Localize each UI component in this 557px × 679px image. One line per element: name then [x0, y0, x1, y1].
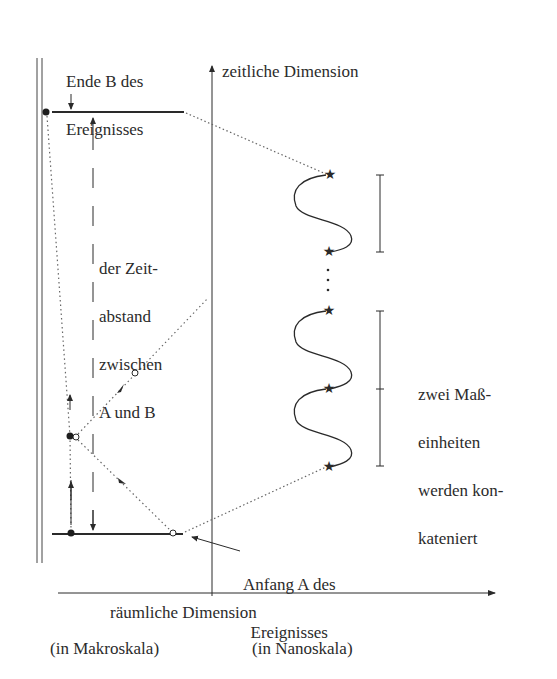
measure-bracket-single — [376, 175, 384, 252]
concatenation-label-line4: kateniert — [418, 531, 503, 547]
signal-path-left — [47, 116, 79, 530]
interval-label-line3: zwischen — [99, 357, 162, 373]
start-event-dot — [68, 530, 75, 537]
space-axis-label: räumliche Dimension — [110, 604, 257, 621]
svg-text:★: ★ — [324, 166, 337, 182]
start-event-pointer-arrow — [192, 537, 240, 551]
end-event-label-line2: Ereignisses — [66, 122, 143, 138]
measure-bracket-double — [376, 311, 384, 466]
ellipsis-icon — [327, 269, 330, 292]
double-wall-lines — [37, 58, 42, 563]
interval-label-line1: der Zeit- — [99, 261, 162, 277]
start-event-open-circle — [170, 530, 176, 536]
svg-text:★: ★ — [323, 243, 336, 259]
svg-text:★: ★ — [323, 380, 336, 396]
start-event-label-line1: Anfang A des — [243, 577, 336, 593]
nano-scale-label: (in Nanoskala) — [252, 640, 353, 657]
signal-path-diagonal-down — [78, 440, 171, 531]
end-event-label: Ende B des Ereignisses — [66, 42, 143, 154]
interval-label-line2: abstand — [99, 309, 162, 325]
projection-line-top — [186, 113, 326, 174]
time-axis-label: zeitliche Dimension — [222, 63, 358, 80]
end-event-dot — [43, 109, 50, 116]
svg-text:★: ★ — [323, 458, 336, 474]
concatenation-label: zwei Maß- einheiten werden kon- katenier… — [418, 355, 503, 563]
projection-line-bottom — [185, 467, 326, 532]
svg-text:★: ★ — [323, 302, 336, 318]
concatenation-label-line3: werden kon- — [418, 483, 503, 499]
interval-label: der Zeit- abstand zwischen A und B — [99, 229, 162, 437]
macro-scale-label: (in Makroskala) — [50, 640, 159, 657]
concatenation-label-line2: einheiten — [418, 435, 503, 451]
star-markers: ★ ★ ★ ★ ★ — [323, 166, 337, 474]
end-event-label-line1: Ende B des — [66, 74, 143, 90]
concatenation-label-line1: zwei Maß- — [418, 387, 503, 403]
interval-label-line4: A und B — [99, 405, 162, 421]
wave-upper-unit — [294, 175, 351, 252]
